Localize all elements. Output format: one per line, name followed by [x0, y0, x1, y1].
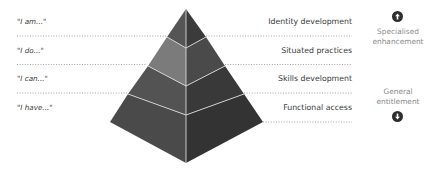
right-label-skills-development: Skills development	[278, 74, 352, 83]
right-label-functional-access: Functional access	[283, 103, 352, 112]
side-bottom-line2: entitlement	[363, 97, 433, 107]
side-top-line2: enhancement	[363, 37, 433, 47]
left-label-i-can: "I can..."	[17, 74, 48, 83]
left-label-i-do: "I do..."	[17, 46, 44, 55]
left-label-i-am: "I am..."	[17, 17, 46, 26]
side-bottom-line1: General	[363, 87, 433, 97]
general-entitlement-label: General entitlement	[363, 87, 433, 106]
arrow-up-circle-icon	[392, 11, 403, 22]
left-label-i-have: "I have..."	[17, 103, 53, 112]
side-top-line1: Specialised	[363, 27, 433, 37]
right-label-identity-development: Identity development	[268, 17, 352, 26]
right-label-situated-practices: Situated practices	[281, 46, 352, 55]
specialised-enhancement-label: Specialised enhancement	[363, 27, 433, 46]
arrow-down-circle-icon	[392, 111, 403, 122]
pyramid-diagram	[0, 0, 441, 170]
